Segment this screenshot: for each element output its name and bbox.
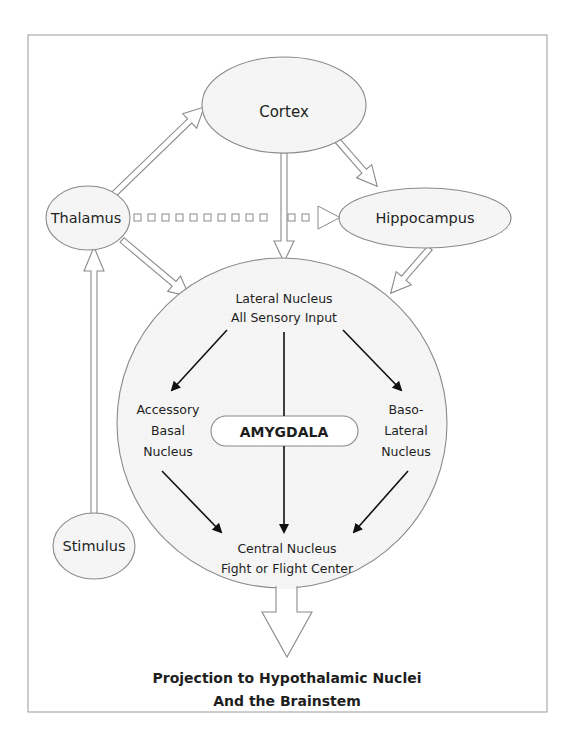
accessory-label-2: Basal (151, 423, 185, 438)
thalamus-label: Thalamus (50, 210, 122, 226)
cortex-label: Cortex (259, 103, 309, 121)
lateral-nucleus-label: Lateral Nucleus (235, 291, 332, 306)
projection-label-1: Projection to Hypothalamic Nuclei (153, 670, 422, 686)
accessory-label-1: Accessory (137, 402, 201, 417)
projection-label-2: And the Brainstem (213, 693, 361, 709)
lateral-nucleus-sublabel: All Sensory Input (231, 310, 337, 325)
stimulus-label: Stimulus (62, 538, 125, 554)
amygdala-pathway-diagram: Cortex Thalamus Hippocampus Stimulus Lat… (0, 0, 573, 748)
hippocampus-label: Hippocampus (375, 210, 474, 226)
accessory-label-3: Nucleus (143, 444, 193, 459)
baso-label-1: Baso- (388, 402, 423, 417)
central-nucleus-sublabel: Fight or Flight Center (221, 561, 354, 576)
baso-label-3: Nucleus (381, 444, 431, 459)
baso-label-2: Lateral (384, 423, 428, 438)
central-nucleus-label: Central Nucleus (237, 541, 336, 556)
amygdala-label: AMYGDALA (240, 424, 329, 440)
